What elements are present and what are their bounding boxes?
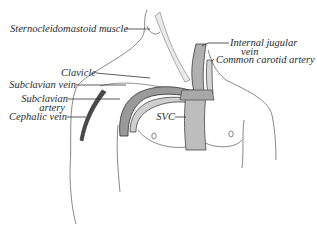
label-subclavian-vein: Subclavian vein <box>0 80 76 90</box>
cephalic-vein-shape <box>80 90 106 141</box>
label-sternocleidomastoid-muscle: Sternocleidomastoid muscle <box>10 24 126 34</box>
internal-jugular-vein-shape <box>192 44 206 92</box>
venous-confluence-shape <box>180 90 214 100</box>
label-cephalic-vein: Cephalic vein <box>0 112 67 122</box>
leader-clavicle <box>96 73 150 78</box>
sternocleidomastoid-shape <box>155 12 190 82</box>
anatomy-figure: Sternocleidomastoid muscle Internal jugu… <box>0 0 317 234</box>
label-svc: SVC <box>150 112 175 122</box>
svc-shape <box>185 94 207 150</box>
label-common-carotid-artery: Common carotid artery <box>216 55 315 65</box>
common-carotid-shape <box>206 60 213 94</box>
label-clavicle: Clavicle <box>40 68 96 78</box>
